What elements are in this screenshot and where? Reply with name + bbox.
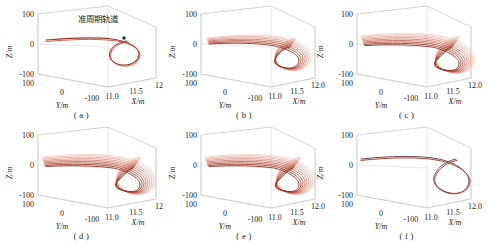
z-ticks-f: 100 0 -100 (339, 131, 354, 200)
svg-text:-100: -100 (247, 215, 262, 224)
svg-text:11.5: 11.5 (129, 208, 143, 217)
svg-text:0: 0 (349, 161, 353, 170)
x-axis-label-c: X/m (448, 97, 462, 106)
y-axis-label-c: Y/m (375, 101, 388, 110)
svg-text:0: 0 (193, 40, 197, 49)
svg-text:100: 100 (185, 10, 197, 19)
svg-text:0: 0 (60, 209, 64, 218)
trajectory-bundle-d (42, 154, 156, 194)
svg-text:12: 12 (155, 81, 163, 90)
annotation-label-a: 准周期轨道 (78, 14, 119, 24)
panel-f: 100 0 -100 100 0 -100 11.0 11.5 12.0 Y/m… (325, 121, 488, 242)
svg-text:-100: -100 (182, 191, 197, 200)
svg-text:0: 0 (379, 209, 383, 218)
svg-text:-100: -100 (182, 70, 197, 79)
panel-b: 100 0 -100 100 0 -100 11.0 11.5 12.0 Z/m… (163, 0, 326, 121)
svg-text:12.0: 12.0 (311, 81, 325, 90)
axes-box-d (38, 127, 156, 208)
svg-text:-100: -100 (404, 215, 419, 224)
trajectory-bundle-c (361, 33, 475, 73)
svg-text:0: 0 (193, 161, 197, 170)
svg-text:-100: -100 (339, 70, 354, 79)
trajectory-bundle-a (46, 38, 140, 66)
z-axis-label-e: Z/m (168, 167, 177, 180)
svg-text:11.5: 11.5 (129, 87, 143, 96)
svg-text:12.0: 12.0 (468, 202, 482, 211)
svg-text:100: 100 (185, 131, 197, 140)
svg-text:-100: -100 (85, 94, 100, 103)
svg-text:100: 100 (22, 79, 34, 88)
y-axis-label-e: Y/m (218, 222, 231, 231)
svg-text:11.0: 11.0 (105, 92, 119, 101)
y-ticks-e: 100 0 -100 (185, 200, 262, 224)
panel-c: 100 0 -100 100 0 -100 11.0 11.5 12.0 Y/m… (325, 0, 488, 121)
svg-text:-100: -100 (247, 94, 262, 103)
y-axis-label-a: Y/m (56, 101, 69, 110)
y-axis-label-d: Y/m (56, 222, 69, 231)
svg-text:11.0: 11.0 (268, 92, 282, 101)
svg-text:11.0: 11.0 (424, 213, 438, 222)
svg-text:-100: -100 (404, 94, 419, 103)
svg-text:11.0: 11.0 (105, 213, 119, 222)
y-ticks-f: 100 0 -100 (341, 200, 418, 224)
svg-text:100: 100 (341, 200, 353, 209)
svg-text:100: 100 (22, 200, 34, 209)
svg-text:12.0: 12.0 (311, 202, 325, 211)
svg-text:12: 12 (155, 202, 163, 211)
svg-text:0: 0 (30, 161, 34, 170)
axes-box-c (357, 6, 471, 87)
y-axis-label-b: Y/m (218, 101, 231, 110)
figure-grid: 100 0 -100 100 0 -100 11.0 11.5 12 Z/m Y… (0, 0, 488, 242)
panel-d: 100 0 -100 100 0 -100 11.0 11.5 12 Z/m Y… (0, 121, 163, 242)
svg-text:100: 100 (185, 79, 197, 88)
svg-text:0: 0 (349, 40, 353, 49)
caption-e: ( e ) (163, 231, 326, 241)
panel-e: 100 0 -100 100 0 -100 11.0 11.5 12.0 Z/m… (163, 121, 326, 242)
svg-text:11.5: 11.5 (446, 87, 460, 96)
y-ticks-a: 100 0 -100 (22, 79, 99, 103)
svg-text:11.0: 11.0 (424, 92, 438, 101)
z-ticks-a: 100 0 -100 (19, 10, 34, 79)
svg-text:100: 100 (22, 10, 34, 19)
svg-text:0: 0 (379, 88, 383, 97)
caption-a: ( a ) (0, 110, 163, 120)
trajectory-bundle-b (207, 35, 311, 70)
svg-text:100: 100 (341, 10, 353, 19)
caption-f: ( f ) (325, 231, 488, 241)
y-ticks-b: 100 0 -100 (185, 79, 262, 103)
svg-text:100: 100 (341, 131, 353, 140)
svg-text:0: 0 (60, 88, 64, 97)
orbit-marker-a (122, 36, 126, 40)
z-ticks-c: 100 0 -100 (339, 10, 354, 79)
svg-text:11.5: 11.5 (290, 87, 304, 96)
svg-text:0: 0 (223, 209, 227, 218)
svg-text:12.0: 12.0 (468, 81, 482, 90)
y-ticks-c: 100 0 -100 (341, 79, 418, 103)
svg-text:0: 0 (30, 40, 34, 49)
caption-c: ( c ) (325, 110, 488, 120)
x-axis-label-f: X/m (448, 218, 462, 227)
z-axis-label-a: Z/m (5, 46, 14, 59)
trajectory-bundle-e (205, 154, 315, 194)
x-axis-label-b: X/m (291, 97, 305, 106)
z-axis-label-e-right: Z/m (316, 167, 325, 180)
svg-text:11.5: 11.5 (446, 208, 460, 217)
x-axis-label-a: X/m (131, 97, 145, 106)
z-ticks-b: 100 0 -100 (182, 10, 197, 79)
axes-box-f (357, 127, 471, 208)
svg-text:11.0: 11.0 (268, 213, 282, 222)
svg-text:-100: -100 (85, 215, 100, 224)
svg-text:-100: -100 (19, 70, 34, 79)
svg-text:100: 100 (22, 131, 34, 140)
svg-text:11.5: 11.5 (290, 208, 304, 217)
y-axis-label-f: Y/m (375, 222, 388, 231)
x-axis-label-d: X/m (131, 218, 145, 227)
caption-b: ( b ) (163, 110, 326, 120)
z-ticks-d: 100 0 -100 (19, 131, 34, 200)
caption-d: ( d ) (0, 231, 163, 241)
trajectory-bundle-f (361, 156, 470, 193)
svg-text:-100: -100 (339, 191, 354, 200)
svg-text:-100: -100 (19, 191, 34, 200)
svg-text:0: 0 (223, 88, 227, 97)
panel-a: 100 0 -100 100 0 -100 11.0 11.5 12 Z/m Y… (0, 0, 163, 121)
